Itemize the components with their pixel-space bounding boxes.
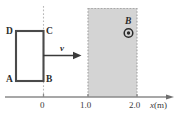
x-axis-unit: (m) [154, 100, 167, 110]
conducting-loop [16, 31, 44, 81]
physics-diagram: D C A B v B 0 1.0 2.0 x(m) [0, 0, 179, 121]
loop-corner-label-b: B [46, 75, 52, 85]
x-axis-title: x(m) [150, 101, 167, 110]
loop-corner-label-c: C [46, 27, 53, 37]
axis-tick-label-2: 2.0 [129, 101, 140, 110]
magnetic-field-label: B [125, 17, 131, 27]
axis-tick-label-0: 0 [40, 101, 45, 110]
velocity-label: v [60, 44, 64, 53]
axis-tick-label-1: 1.0 [80, 101, 91, 110]
loop-corner-label-d: D [6, 27, 13, 37]
loop-corner-label-a: A [6, 75, 13, 85]
x-axis-arrowhead [166, 95, 174, 100]
